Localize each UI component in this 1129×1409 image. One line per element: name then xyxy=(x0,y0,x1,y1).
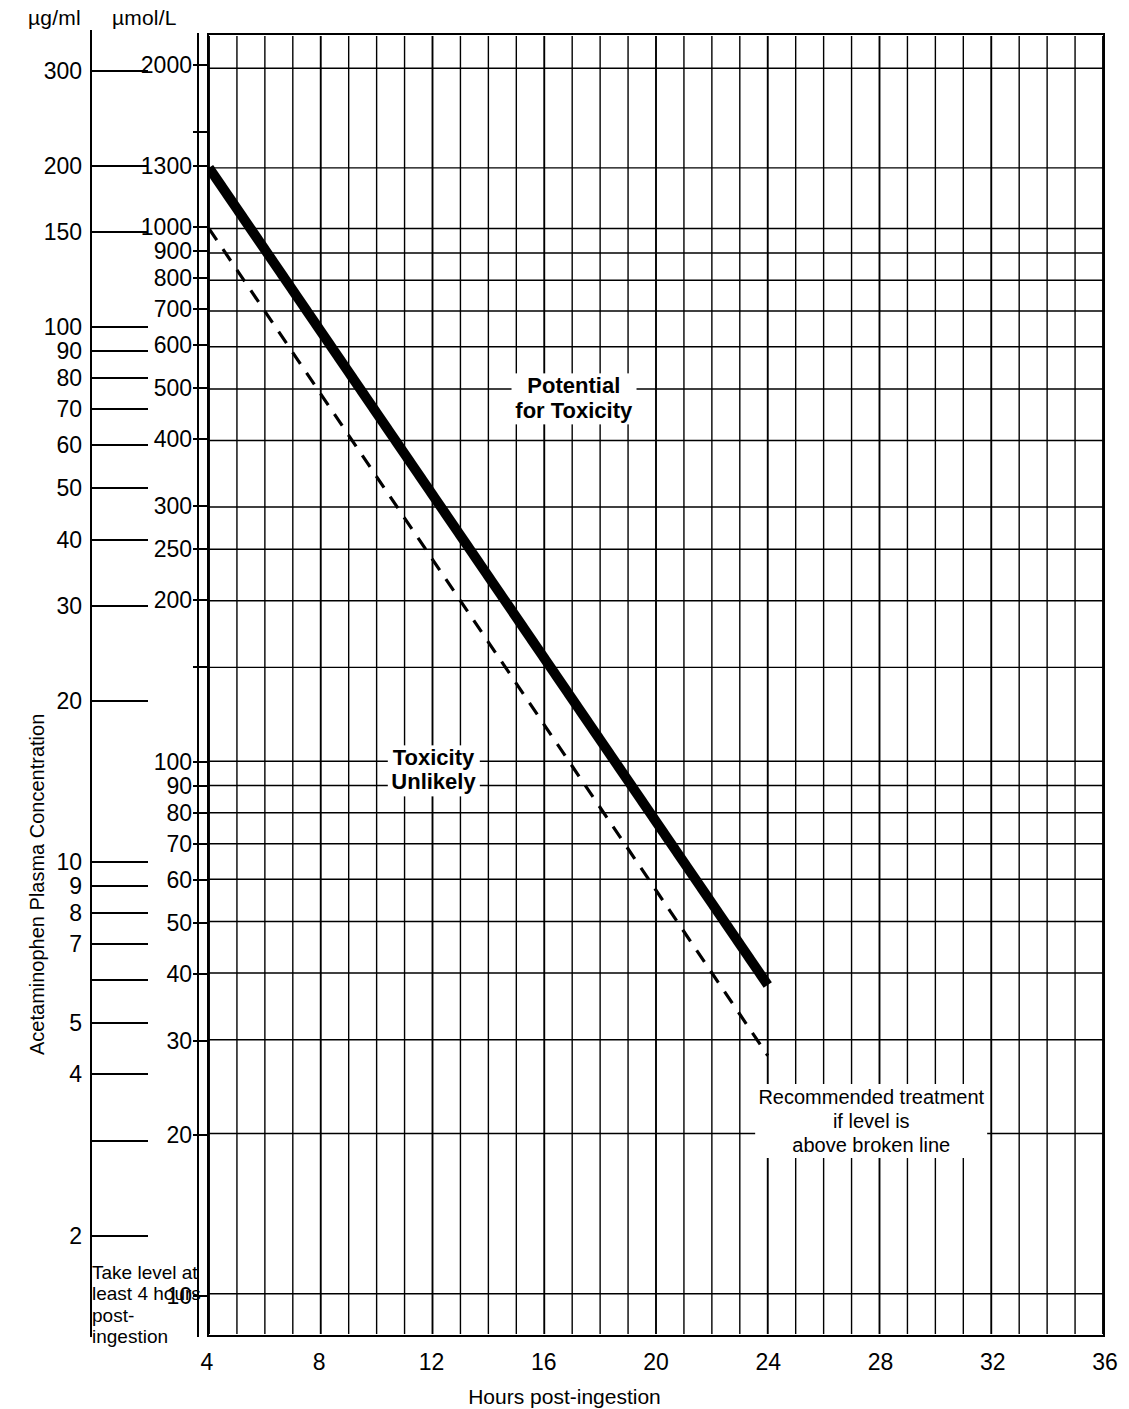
umol-per-l-tick-70 xyxy=(193,843,207,845)
umol-per-l-tick-150 xyxy=(193,666,207,668)
annotation-potential-for-toxicity: Potential for Toxicity xyxy=(511,373,636,424)
umol-per-l-label-800: 800 xyxy=(82,265,192,292)
x-axis-title: Hours post-ingestion xyxy=(0,1385,1129,1409)
ug-per-ml-label-9: 9 xyxy=(10,873,82,900)
umol-per-l-label-70: 70 xyxy=(82,831,192,858)
umol-per-l-tick-300 xyxy=(193,505,207,507)
umol-per-l-label-250: 250 xyxy=(82,535,192,562)
umol-per-l-label-600: 600 xyxy=(82,332,192,359)
umol-per-l-label-400: 400 xyxy=(82,426,192,453)
ug-per-ml-tick-5 xyxy=(90,1022,148,1024)
ug-per-ml-label-200: 200 xyxy=(10,152,82,179)
umol-per-l-tick-250 xyxy=(193,548,207,550)
annotation-unlikely-line-1: Toxicity xyxy=(391,746,475,771)
ug-per-ml-label-80: 80 xyxy=(10,365,82,392)
umol-per-l-label-80: 80 xyxy=(82,800,192,827)
ug-per-ml-label-300: 300 xyxy=(10,58,82,85)
umol-per-l-tick-1300 xyxy=(193,165,207,167)
umol-per-l-tick-600 xyxy=(193,344,207,346)
umol-per-l-tick-80 xyxy=(193,812,207,814)
umol-per-l-tick-200 xyxy=(193,599,207,601)
umol-per-l-tick-900 xyxy=(193,250,207,252)
umol-per-l-label-300: 300 xyxy=(82,493,192,520)
umol-per-l-label-90: 90 xyxy=(82,772,192,799)
x-axis-label-12: 12 xyxy=(419,1349,445,1376)
umol-per-l-tick-700 xyxy=(193,308,207,310)
umol-per-l-tick-40 xyxy=(193,973,207,975)
ug-per-ml-label-50: 50 xyxy=(10,474,82,501)
umol-per-l-scale-rail xyxy=(197,33,199,1337)
ug-per-ml-label-20: 20 xyxy=(10,687,82,714)
ug-per-ml-label-2: 2 xyxy=(10,1222,82,1249)
umol-per-l-tick-500 xyxy=(193,387,207,389)
ug-per-ml-tick-7 xyxy=(90,943,148,945)
umol-per-l-tick-100 xyxy=(193,761,207,763)
ug-per-ml-label-70: 70 xyxy=(10,396,82,423)
umol-per-l-tick-60 xyxy=(193,879,207,881)
umol-per-l-label-1300: 1300 xyxy=(82,152,192,179)
ug-per-ml-label-5: 5 xyxy=(10,1009,82,1036)
umol-per-l-tick-400 xyxy=(193,438,207,440)
umol-per-l-label-700: 700 xyxy=(82,296,192,323)
ug-per-ml-label-150: 150 xyxy=(10,219,82,246)
umol-per-l-tick-90 xyxy=(193,785,207,787)
annotation-potential-line-2: for Toxicity xyxy=(515,399,632,424)
umol-per-l-label-2000: 2000 xyxy=(82,52,192,79)
umol-per-l-label-900: 900 xyxy=(82,237,192,264)
ug-per-ml-tick-4 xyxy=(90,1073,148,1075)
x-axis-label-28: 28 xyxy=(868,1349,894,1376)
x-axis-label-4: 4 xyxy=(201,1349,214,1376)
x-axis-label-8: 8 xyxy=(313,1349,326,1376)
annotation-treatment-line-3: above broken line xyxy=(758,1133,984,1157)
ug-per-ml-label-40: 40 xyxy=(10,526,82,553)
ug-per-ml-label-100: 100 xyxy=(10,313,82,340)
x-axis-label-36: 36 xyxy=(1092,1349,1118,1376)
annotation-potential-line-1: Potential xyxy=(515,374,632,399)
ug-per-ml-label-10: 10 xyxy=(10,848,82,875)
umol-per-l-label-50: 50 xyxy=(82,909,192,936)
ug-per-ml-label-8: 8 xyxy=(10,900,82,927)
umol-per-l-label-1000: 1000 xyxy=(82,213,192,240)
x-axis-label-20: 20 xyxy=(643,1349,669,1376)
umol-per-l-tick-30 xyxy=(193,1040,207,1042)
umol-per-l-tick-1000 xyxy=(193,226,207,228)
take-level-note: Take level at least 4 hours post- ingest… xyxy=(92,1262,201,1347)
umol-per-l-tick-20 xyxy=(193,1134,207,1136)
ug-per-ml-tick-10 xyxy=(90,861,148,863)
umol-per-l-tick-1500 xyxy=(193,131,207,133)
umol-per-l-label-40: 40 xyxy=(82,961,192,988)
umol-per-l-tick-50 xyxy=(193,922,207,924)
ug-per-ml-label-90: 90 xyxy=(10,338,82,365)
umol-per-l-label-200: 200 xyxy=(82,587,192,614)
ug-per-ml-label-60: 60 xyxy=(10,432,82,459)
ug-per-ml-tick-20 xyxy=(90,700,148,702)
ug-per-ml-tick-100 xyxy=(90,326,148,328)
umol-per-l-tick-2000 xyxy=(193,64,207,66)
ug-per-ml-tick-2 xyxy=(90,1235,148,1237)
annotation-toxicity-unlikely: Toxicity Unlikely xyxy=(387,745,479,796)
annotation-recommended-treatment: Recommended treatment if level is above … xyxy=(755,1084,987,1158)
annotation-treatment-line-2: if level is xyxy=(758,1109,984,1133)
nomogram-figure: µg/ml µmol/L Acetaminophen Plasma Concen… xyxy=(0,0,1129,1409)
annotation-unlikely-line-2: Unlikely xyxy=(391,771,475,796)
x-axis-label-24: 24 xyxy=(755,1349,781,1376)
ug-per-ml-tick-50 xyxy=(90,487,148,489)
ug-per-ml-label-30: 30 xyxy=(10,593,82,620)
umol-per-l-label-500: 500 xyxy=(82,374,192,401)
ug-per-ml-label-4: 4 xyxy=(10,1061,82,1088)
annotation-treatment-line-1: Recommended treatment xyxy=(758,1085,984,1109)
ug-per-ml-tick-70 xyxy=(90,408,148,410)
x-axis-label-32: 32 xyxy=(980,1349,1006,1376)
umol-per-l-label-30: 30 xyxy=(82,1028,192,1055)
plot-area: Potential for Toxicity Toxicity Unlikely… xyxy=(207,33,1105,1337)
unit-header-ug-per-ml: µg/ml xyxy=(28,6,81,30)
umol-per-l-tick-800 xyxy=(193,277,207,279)
umol-per-l-label-20: 20 xyxy=(82,1122,192,1149)
x-axis-label-16: 16 xyxy=(531,1349,557,1376)
ug-per-ml-label-7: 7 xyxy=(10,931,82,958)
umol-per-l-label-100: 100 xyxy=(82,748,192,775)
unit-header-umol-per-l: µmol/L xyxy=(112,6,177,30)
umol-per-l-label-60: 60 xyxy=(82,867,192,894)
